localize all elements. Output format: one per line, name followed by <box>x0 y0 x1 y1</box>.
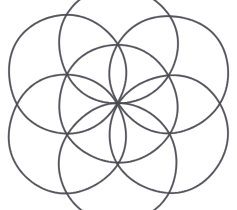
drawing-canvas: Seed of Life Hand-drawn sacred geometry … <box>0 0 237 210</box>
ring-circle-bottom <box>59 103 177 210</box>
seed-of-life-figure: Seed of Life Hand-drawn sacred geometry … <box>0 0 237 210</box>
circle-layer <box>9 0 228 210</box>
